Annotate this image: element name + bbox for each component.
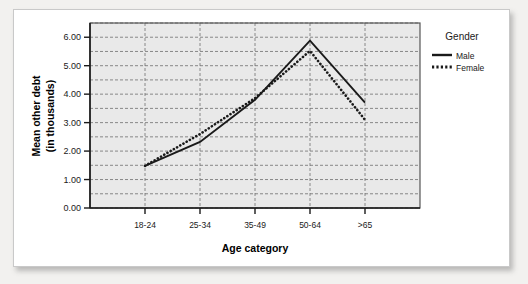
line-chart: 0.001.002.003.004.005.006.00 18-2425-343… <box>0 0 528 284</box>
y-tick-label: 6.00 <box>63 32 81 42</box>
legend-label-female: Female <box>456 63 485 73</box>
y-tick-label: 2.00 <box>63 146 81 156</box>
y-tick-label: 0.00 <box>63 203 81 213</box>
chart-canvas: 0.001.002.003.004.005.006.00 18-2425-343… <box>0 0 528 284</box>
y-tick-label: 5.00 <box>63 61 81 71</box>
y-tick-label: 4.00 <box>63 89 81 99</box>
x-category-label: 25-34 <box>189 220 211 230</box>
x-axis-ticks: 18-2425-3435-4950-64>65 <box>134 208 372 230</box>
chart-legend: Gender Male Female <box>432 31 485 73</box>
page-background: 0.001.002.003.004.005.006.00 18-2425-343… <box>0 0 528 284</box>
legend-title: Gender <box>445 31 479 42</box>
y-axis-title-line1: Mean other debt <box>30 75 42 157</box>
x-category-label: 50-64 <box>299 220 321 230</box>
y-tick-label: 3.00 <box>63 118 81 128</box>
y-tick-label: 1.00 <box>63 175 81 185</box>
y-axis-title-line2: (in thousands) <box>44 80 56 152</box>
legend-label-male: Male <box>456 51 475 61</box>
x-category-label: >65 <box>358 220 373 230</box>
x-category-label: 18-24 <box>134 220 156 230</box>
x-axis-title: Age category <box>222 242 289 254</box>
x-category-label: 35-49 <box>244 220 266 230</box>
y-axis-ticks: 0.001.002.003.004.005.006.00 <box>63 32 90 213</box>
